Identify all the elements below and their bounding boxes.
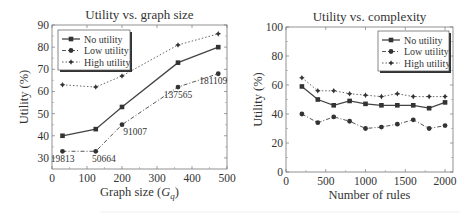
legend-entry: Low utility [404,46,449,57]
figure: Utility vs. graph size010020030040050030… [0,0,476,215]
data-point [347,119,352,124]
data-point [443,123,448,128]
data-point [120,105,125,110]
point-annotation: 181109 [199,76,227,86]
data-point [176,60,181,65]
x-tick-label: 400 [183,172,201,184]
legend-marker [389,38,394,43]
legend-marker [69,37,74,42]
series-line-low-utility [302,114,445,129]
y-tick-label: 60 [38,85,50,97]
data-point [379,94,385,100]
legend-marker [69,48,74,53]
chart-utility-vs-complexity: Utility vs. complexity050010001500200002… [251,9,457,202]
data-point [215,31,221,37]
point-annotation: 19813 [51,154,75,164]
data-point [363,92,369,98]
data-point [299,75,305,81]
data-point [331,88,337,94]
data-point [315,120,320,125]
x-tick-label: 0 [49,172,55,184]
y-tick-label: 60 [272,79,284,91]
y-tick-label: 80 [272,50,284,62]
data-point [60,133,65,138]
data-point [60,82,66,88]
x-tick-label: 1500 [394,175,417,187]
x-tick-label: 0 [283,175,289,187]
y-axis-label: Utility (%) [251,72,265,127]
data-point [410,94,416,100]
y-axis-label: Utility (%) [17,70,31,125]
y-tick-label: 20 [272,137,284,149]
data-point [93,84,99,90]
data-point [411,103,416,108]
x-tick-label: 2000 [434,175,457,187]
data-point [427,106,432,111]
data-point [363,126,368,131]
data-point [411,117,416,122]
legend-entry: High utility [84,57,130,68]
data-point [216,45,221,50]
x-tick-label: 500 [317,175,335,187]
data-point [379,103,384,108]
x-axis-label: Number of rules [329,188,411,202]
x-tick-label: 500 [218,172,236,184]
x-tick-label: 100 [78,172,96,184]
chart-title: Utility vs. graph size [85,7,194,22]
legend-entry: No utility [404,35,443,46]
y-tick-label: 0 [277,166,283,178]
y-tick-label: 100 [266,21,284,33]
x-tick-label: 200 [113,172,131,184]
data-point [300,112,305,117]
data-point [442,94,448,100]
data-point [175,42,181,48]
chart-utility-vs-graph-size: Utility vs. graph size010020030040050030… [17,7,236,201]
data-point [331,103,336,108]
y-tick-label: 50 [38,108,50,120]
data-point [93,127,98,132]
series-line-no-utility [302,86,445,108]
y-tick-label: 90 [38,19,50,31]
data-point [395,91,401,97]
y-tick-label: 80 [38,41,50,53]
x-axis-label: Graph size (Gq) [100,185,179,201]
data-point [395,122,400,127]
point-annotation: 137565 [164,90,193,100]
data-point [426,94,432,100]
y-tick-label: 40 [272,108,284,120]
data-point [119,73,125,79]
data-point [331,115,336,120]
point-annotation: 50664 [92,154,116,164]
legend-entry: High utility [404,58,450,69]
data-point [60,149,65,154]
series-line-low-utility [63,74,219,152]
legend-entry: Low utility [84,45,129,56]
data-point [176,85,181,90]
series-line-high-utility [302,78,445,97]
legend-entry: No utility [84,34,123,45]
data-point [347,91,353,97]
data-point [443,100,448,105]
y-tick-label: 30 [38,152,50,164]
x-tick-label: 1000 [354,175,377,187]
x-tick-label: 300 [148,172,166,184]
data-point [363,102,368,107]
legend-marker [389,49,394,54]
data-point [379,125,384,130]
chart-title: Utility vs. complexity [313,9,427,24]
point-annotation: 91007 [123,127,147,137]
y-tick-label: 40 [38,130,50,142]
data-point [395,103,400,108]
data-point [347,99,352,104]
data-point [427,126,432,131]
data-point [300,84,305,89]
data-point [316,97,321,102]
y-tick-label: 70 [38,63,50,75]
data-point [93,149,98,154]
